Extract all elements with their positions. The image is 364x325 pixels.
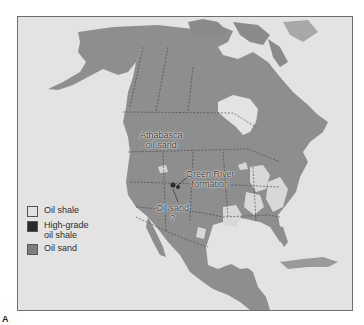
label-line: ?: [156, 213, 189, 223]
label-line: oil sand: [140, 140, 183, 150]
legend-label: Oil shale: [44, 205, 79, 215]
label-line: Green River: [186, 169, 235, 179]
figure-label: A: [2, 314, 9, 324]
legend-item-oil-sand: Oil sand: [27, 243, 89, 255]
map-legend: Oil shale High-grade oil shale Oil sand: [27, 205, 89, 258]
label-oil-sand-question: Oil sand ?: [156, 203, 189, 223]
legend-item-oil-shale: Oil shale: [27, 205, 89, 217]
gulf-of-mexico: [223, 225, 276, 269]
legend-label: High-grade oil shale: [44, 220, 89, 240]
oil-sand-swatch: [27, 244, 38, 255]
land-florida: [273, 225, 288, 247]
label-line: Oil sand: [156, 203, 189, 213]
high-grade-oil-shale-swatch: [27, 221, 38, 232]
land-greenland: [283, 20, 318, 42]
label-athabasca-oil-sand: Athabasca oil sand: [140, 130, 183, 150]
north-america-map: [18, 17, 352, 310]
legend-line: Oil shale: [44, 205, 79, 215]
legend-item-high-grade-oil-shale: High-grade oil shale: [27, 220, 89, 240]
legend-line: Oil sand: [44, 243, 77, 253]
legend-label: Oil sand: [44, 243, 77, 253]
legend-line: oil shale: [44, 230, 89, 240]
label-green-river-formation: Green River formation: [186, 169, 235, 189]
map-frame: Athabasca oil sand Green River formation…: [17, 16, 353, 311]
label-line: formation: [186, 179, 235, 189]
label-line: Athabasca: [140, 130, 183, 140]
high-grade-oil-shale: [176, 185, 180, 189]
legend-line: High-grade: [44, 220, 89, 230]
land-caribbean: [280, 257, 338, 269]
oil-shale-swatch: [27, 206, 38, 217]
